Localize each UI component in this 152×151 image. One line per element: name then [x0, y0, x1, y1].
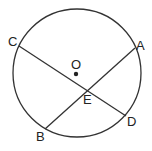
circle-chord-diagram: O C A E D B — [0, 0, 152, 151]
label-d: D — [127, 114, 136, 129]
label-c: C — [8, 34, 17, 49]
center-point-dot — [74, 72, 78, 76]
chord-ab — [45, 48, 135, 129]
label-o: O — [71, 57, 81, 72]
label-a: A — [136, 38, 145, 53]
label-b: B — [36, 129, 45, 144]
label-e: E — [83, 92, 92, 107]
